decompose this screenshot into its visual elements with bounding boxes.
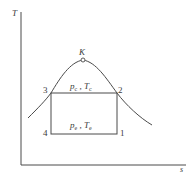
critical-point-label: K <box>79 48 85 57</box>
critical-point-marker <box>81 58 85 62</box>
t-s-diagram: T s K 3 2 4 1 pc , Tc pe , Te <box>0 0 195 178</box>
separator: , <box>77 81 84 91</box>
temperature-subscript: e <box>89 125 92 131</box>
state-3-label: 3 <box>43 86 48 95</box>
y-axis-label: T <box>12 9 17 18</box>
condensing-conditions-label: pc , Tc <box>70 82 92 92</box>
state-1-label: 1 <box>120 129 125 138</box>
state-4-label: 4 <box>43 129 48 138</box>
temperature-subscript: c <box>89 86 92 92</box>
separator: , <box>77 120 84 130</box>
x-axis-label: s <box>180 166 183 174</box>
diagram-graphics <box>0 0 195 178</box>
evaporating-conditions-label: pe , Te <box>70 121 92 131</box>
state-2-label: 2 <box>118 86 123 95</box>
